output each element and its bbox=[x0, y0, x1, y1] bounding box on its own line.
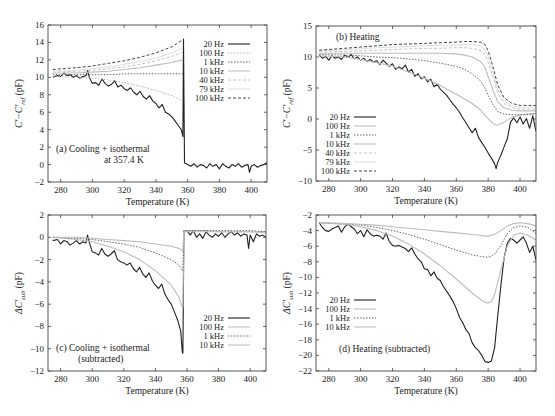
x-tick-label: 340 bbox=[418, 374, 432, 384]
y-tick-label: 14 bbox=[35, 37, 45, 47]
series-group bbox=[319, 223, 536, 363]
y-tick-label: −10 bbox=[30, 344, 45, 354]
y-tick-label: 10 bbox=[303, 52, 313, 62]
x-tick-label: 360 bbox=[180, 374, 194, 384]
y-tick-label: −6 bbox=[34, 299, 44, 309]
y-tick-label: −4 bbox=[34, 277, 44, 287]
y-tick-label: 5 bbox=[308, 83, 313, 93]
y-tick-label: −22 bbox=[298, 366, 312, 376]
legend-label: 100 kHz bbox=[321, 166, 350, 176]
legend-label: 100 kHz bbox=[195, 93, 224, 103]
x-axis-label: Temperature (K) bbox=[394, 196, 457, 207]
series-line-100hz bbox=[53, 77, 183, 101]
y-tick-label: −2 bbox=[34, 177, 44, 187]
legend: 20 Hz100 Hz1 kHz10 kHz40 kHz79 kHz100 kH… bbox=[195, 39, 250, 103]
x-tick-label: 400 bbox=[513, 184, 527, 194]
figure-canvas: 280300320340360380400−20246810121416Temp… bbox=[0, 0, 555, 416]
chart-panel-d: 280300320340360380400−22−20−18−16−14−12−… bbox=[282, 210, 536, 397]
x-tick-label: 300 bbox=[354, 184, 368, 194]
y-tick-label: −14 bbox=[298, 304, 313, 314]
series-line-1khz bbox=[319, 223, 536, 257]
x-tick-label: 280 bbox=[54, 374, 68, 384]
series-line-1khz bbox=[53, 231, 266, 271]
y-axis-label: C′−C′ref (pF) bbox=[14, 79, 26, 128]
x-tick-label: 400 bbox=[513, 374, 527, 384]
y-tick-label: 16 bbox=[35, 20, 45, 30]
y-tick-label: −10 bbox=[298, 272, 313, 282]
x-tick-label: 360 bbox=[450, 184, 464, 194]
chart-panel-c: 280300320340360380400−12−10−8−6−4−202Tem… bbox=[14, 210, 266, 397]
y-tick-label: 15 bbox=[303, 21, 313, 31]
legend-label: 10 kHz bbox=[325, 322, 350, 332]
x-tick-label: 340 bbox=[418, 184, 432, 194]
chart-panel-b: 280300320340360380400−10−5051015Temperat… bbox=[282, 21, 536, 207]
legend: 20 Hz100 Hz1 kHz10 kHz bbox=[325, 295, 376, 332]
legend: 20 Hz100 Hz1 kHz10 kHz40 kHz79 kHz100 kH… bbox=[321, 112, 376, 176]
y-tick-label: −16 bbox=[298, 319, 313, 329]
y-tick-label: −18 bbox=[298, 335, 313, 345]
y-tick-label: 12 bbox=[35, 55, 44, 65]
chart-panel-a: 280300320340360380400−20246810121416Temp… bbox=[14, 20, 267, 208]
x-tick-label: 380 bbox=[212, 374, 226, 384]
y-axis-label: ΔC′sub (pF) bbox=[282, 272, 294, 315]
x-tick-label: 300 bbox=[354, 374, 368, 384]
panel-label: (a) Cooling + isothermal bbox=[56, 144, 150, 155]
x-tick-label: 320 bbox=[117, 185, 131, 195]
x-tick-label: 300 bbox=[85, 374, 99, 384]
series-line-20hz bbox=[319, 55, 536, 169]
series-group bbox=[53, 231, 266, 354]
y-tick-label: 2 bbox=[40, 142, 45, 152]
y-tick-label: −4 bbox=[302, 226, 312, 236]
x-tick-label: 360 bbox=[450, 374, 464, 384]
y-tick-label: 8 bbox=[40, 90, 45, 100]
y-tick-label: −12 bbox=[298, 288, 312, 298]
series-line-20hz bbox=[319, 223, 536, 363]
x-axis-label: Temperature (K) bbox=[126, 197, 189, 208]
panel-label: (b) Heating bbox=[336, 32, 380, 43]
y-tick-label: 0 bbox=[308, 114, 313, 124]
x-axis-label: Temperature (K) bbox=[394, 386, 457, 397]
y-tick-label: −5 bbox=[302, 145, 312, 155]
y-tick-label: −12 bbox=[30, 366, 44, 376]
x-axis-label: Temperature (K) bbox=[125, 386, 188, 397]
x-tick-label: 280 bbox=[322, 374, 336, 384]
y-tick-label: −8 bbox=[34, 321, 44, 331]
legend-label: 10 kHz bbox=[199, 340, 224, 350]
y-tick-label: −10 bbox=[298, 176, 313, 186]
panel-label-line2: (subtracted) bbox=[78, 354, 123, 365]
y-tick-label: 0 bbox=[40, 232, 45, 242]
y-tick-label: 2 bbox=[40, 210, 45, 220]
legend: 20 Hz100 Hz1 kHz10 kHz bbox=[199, 313, 250, 350]
x-tick-label: 400 bbox=[244, 185, 258, 195]
series-line-1khz bbox=[53, 74, 183, 75]
series-group bbox=[319, 42, 536, 169]
series-line-10khz bbox=[319, 223, 536, 236]
x-tick-label: 300 bbox=[86, 185, 100, 195]
series-line-20hz bbox=[53, 231, 266, 354]
x-tick-label: 340 bbox=[149, 185, 163, 195]
y-tick-label: −2 bbox=[302, 210, 312, 220]
y-axis-label: ΔC′sub (pF) bbox=[14, 272, 26, 315]
panel-label: (c) Cooling + isothermal bbox=[56, 343, 150, 354]
y-tick-label: 6 bbox=[40, 107, 45, 117]
series-line-79khz bbox=[319, 45, 536, 108]
x-tick-label: 280 bbox=[322, 184, 336, 194]
x-tick-label: 380 bbox=[481, 184, 495, 194]
y-tick-label: −8 bbox=[302, 257, 312, 267]
x-tick-label: 380 bbox=[481, 374, 495, 384]
plot-frame bbox=[48, 25, 267, 182]
panel-label-line2: at 357.4 K bbox=[104, 155, 144, 165]
x-tick-label: 320 bbox=[117, 374, 131, 384]
y-tick-label: −2 bbox=[34, 255, 44, 265]
y-tick-label: 4 bbox=[40, 125, 45, 135]
x-tick-label: 340 bbox=[149, 374, 163, 384]
x-tick-label: 360 bbox=[181, 185, 195, 195]
y-tick-label: 0 bbox=[40, 160, 45, 170]
y-axis-label: C′−C′ref (pF) bbox=[282, 79, 294, 128]
y-tick-label: −20 bbox=[298, 350, 313, 360]
series-line-1khz bbox=[319, 55, 536, 115]
x-tick-label: 280 bbox=[54, 185, 68, 195]
x-tick-label: 320 bbox=[386, 184, 400, 194]
x-tick-label: 380 bbox=[213, 185, 227, 195]
panel-label: (d) Heating (subtracted) bbox=[339, 344, 430, 355]
